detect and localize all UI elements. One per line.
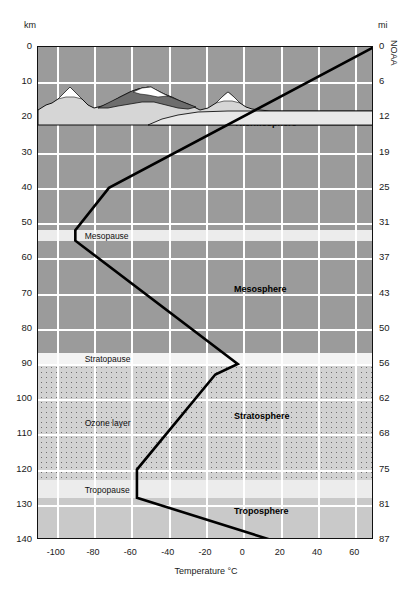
tick-km-100: 40 — [2, 181, 32, 192]
tick-mi-62: 62 — [379, 392, 403, 403]
tick-temp-60: 60 — [334, 547, 374, 557]
right-axis-unit-label: mi — [378, 20, 388, 30]
mountain-silhouette — [38, 87, 373, 125]
tick-mi-50: 50 — [379, 322, 403, 333]
tick-mi-81: 81 — [379, 498, 403, 509]
tick-mi-31: 31 — [379, 216, 403, 227]
tick-mi-12: 12 — [379, 110, 403, 121]
tick-km-110: 30 — [2, 146, 32, 157]
tick-km-120: 20 — [2, 110, 32, 121]
tick-mi-87: 87 — [379, 533, 403, 544]
tick-mi-19: 19 — [379, 146, 403, 157]
tick-km-50: 90 — [2, 357, 32, 368]
tick-mi-56: 56 — [379, 357, 403, 368]
tick-km-70: 70 — [2, 287, 32, 298]
tick-km-10: 130 — [2, 498, 32, 509]
tick-km-60: 80 — [2, 322, 32, 333]
tick-km-40: 100 — [2, 392, 32, 403]
tick-km-0: 140 — [2, 533, 32, 544]
atmosphere-temperature-chart: km mi NOAA Ozone layerMesopauseStratopau… — [0, 0, 412, 589]
x-axis-title: Temperature °C — [0, 566, 412, 576]
tick-mi-25: 25 — [379, 181, 403, 192]
tick-mi-0: 0 — [379, 40, 403, 51]
tick-temp-40: 40 — [297, 547, 337, 557]
tick-temp--40: -40 — [148, 547, 188, 557]
tick-km-140: 0 — [2, 40, 32, 51]
tick-km-130: 10 — [2, 75, 32, 86]
tick-mi-37: 37 — [379, 251, 403, 262]
tick-temp--20: -20 — [185, 547, 225, 557]
tick-temp-20: 20 — [260, 547, 300, 557]
tick-temp--60: -60 — [110, 547, 150, 557]
tick-mi-43: 43 — [379, 287, 403, 298]
tick-km-90: 50 — [2, 216, 32, 227]
left-axis-unit-label: km — [24, 20, 36, 30]
tick-temp--100: -100 — [36, 547, 76, 557]
tick-mi-6: 6 — [379, 75, 403, 86]
tick-mi-75: 75 — [379, 463, 403, 474]
temperature-curve-svg — [38, 47, 373, 539]
plot-area: Ozone layerMesopauseStratopauseTropopaus… — [37, 46, 373, 539]
tick-temp-0: 0 — [222, 547, 262, 557]
tick-temp--80: -80 — [73, 547, 113, 557]
tick-km-20: 120 — [2, 463, 32, 474]
tick-km-80: 60 — [2, 251, 32, 262]
tick-km-30: 110 — [2, 427, 32, 438]
tick-mi-68: 68 — [379, 427, 403, 438]
